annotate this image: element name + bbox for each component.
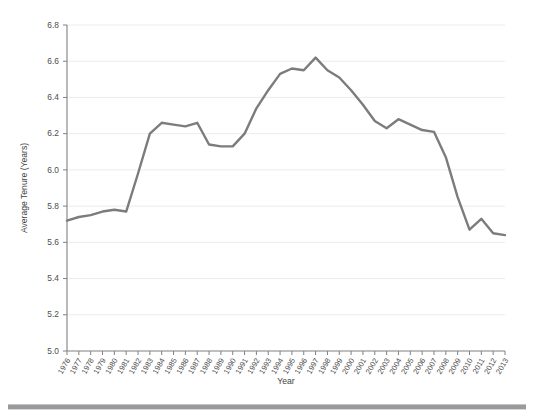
y-tick-label: 6.0	[47, 165, 59, 175]
y-axis-tick-labels: 5.05.25.45.65.86.06.26.46.66.8	[47, 20, 59, 356]
y-tick-label: 6.8	[47, 20, 59, 30]
x-axis-tick-labels: 1976197719781979198019811982198319841985…	[56, 357, 510, 376]
line-chart: 5.05.25.45.65.86.06.26.46.66.8 197619771…	[0, 0, 534, 417]
y-tick-label: 6.2	[47, 128, 59, 138]
y-tick-label: 5.6	[47, 237, 59, 247]
y-tick-label: 5.0	[47, 346, 59, 356]
chart-figure: 5.05.25.45.65.86.06.26.46.66.8 197619771…	[0, 0, 534, 417]
x-tick-label: 2013	[494, 357, 510, 376]
footer-rule	[8, 404, 526, 410]
x-axis-title: Year	[277, 376, 295, 386]
y-axis-ticks	[63, 25, 67, 351]
x-axis-ticks	[67, 351, 505, 355]
y-tick-label: 5.4	[47, 273, 59, 283]
y-tick-label: 6.4	[47, 92, 59, 102]
y-tick-label: 5.2	[47, 309, 59, 319]
y-tick-label: 5.8	[47, 201, 59, 211]
y-axis-title: Average Tenure (Years)	[19, 143, 29, 233]
y-tick-label: 6.6	[47, 56, 59, 66]
